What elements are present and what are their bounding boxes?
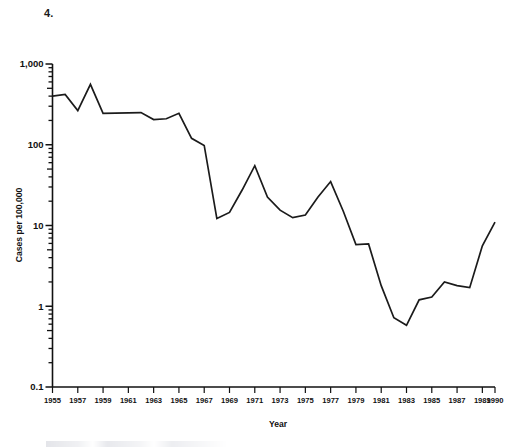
y-tick-label: 10 bbox=[33, 220, 44, 231]
x-tick-label: 1965 bbox=[170, 396, 188, 405]
x-tick-label: 1973 bbox=[272, 396, 289, 405]
series-line bbox=[53, 84, 496, 325]
x-tick-label: 1957 bbox=[69, 396, 86, 405]
x-tick-label: 1969 bbox=[221, 396, 238, 405]
x-tick-label: 1959 bbox=[95, 396, 112, 405]
x-tick-label: 1979 bbox=[347, 396, 364, 405]
y-tick-label: 0.1 bbox=[30, 381, 44, 392]
footer-artifact bbox=[46, 441, 226, 447]
x-tick-label: 1983 bbox=[398, 396, 415, 405]
x-tick-label: 1977 bbox=[322, 396, 339, 405]
x-axis bbox=[53, 387, 496, 393]
x-tick-label: 1985 bbox=[423, 396, 441, 405]
x-tick-label: 1961 bbox=[120, 396, 138, 405]
y-tick-label: 1,000 bbox=[20, 58, 44, 69]
x-tick-labels: 1955195719591961196319651967196919711973… bbox=[44, 396, 503, 405]
x-tick-label: 1975 bbox=[297, 396, 315, 405]
y-tick-label: 1 bbox=[38, 301, 44, 312]
data-series bbox=[53, 84, 496, 325]
y-axis-title: Cases per 100,000 bbox=[14, 188, 24, 263]
y-tick-label: 100 bbox=[28, 139, 44, 150]
x-tick-label: 1967 bbox=[196, 396, 213, 405]
x-tick-label: 1990 bbox=[487, 396, 504, 405]
chart-canvas: 1,0001001010.1 1955195719591961196319651… bbox=[0, 0, 513, 448]
x-tick-label: 1955 bbox=[44, 396, 62, 405]
x-axis-title: Year bbox=[269, 419, 288, 429]
y-axis bbox=[46, 64, 53, 387]
x-tick-label: 1987 bbox=[449, 396, 466, 405]
incidence-line-chart: 1,0001001010.1 1955195719591961196319651… bbox=[0, 0, 513, 448]
x-tick-label: 1963 bbox=[145, 396, 162, 405]
x-tick-label: 1981 bbox=[373, 396, 391, 405]
x-tick-label: 1971 bbox=[246, 396, 264, 405]
